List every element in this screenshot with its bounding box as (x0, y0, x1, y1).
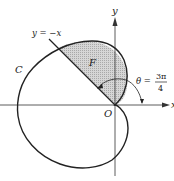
y-axis-label: y (111, 5, 118, 16)
line-label: y = −x (31, 28, 61, 38)
polar-diagram: y x O C y = −x F θ = 3π 4 (0, 0, 174, 181)
y-axis-arrow-icon (113, 17, 118, 26)
origin-label: O (104, 108, 112, 119)
angle-arrowhead-base-icon (140, 99, 144, 104)
region-label: F (88, 57, 97, 68)
angle-denominator: 4 (158, 84, 163, 93)
angle-label: θ = (136, 76, 151, 86)
x-axis-label: x (171, 99, 174, 110)
curve-label: C (15, 64, 23, 75)
angle-numerator: 3π (156, 72, 166, 81)
x-axis-arrow-icon (162, 103, 170, 108)
